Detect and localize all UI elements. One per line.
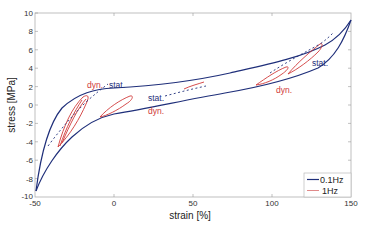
legend-label-1hz: 1Hz — [322, 186, 339, 196]
x-tick: -50 — [29, 199, 41, 208]
x-tick: 100 — [265, 199, 279, 208]
y-tick: 2 — [29, 83, 34, 92]
annotation-dyn: dyn. — [87, 80, 103, 90]
y-tick: 0 — [29, 101, 34, 110]
legend: 0.1Hz 1Hz — [304, 173, 351, 197]
annotation-stat: stat. — [312, 58, 328, 68]
y-tick: -6 — [26, 156, 34, 165]
y-tick: -2 — [26, 119, 34, 128]
annotation-dyn: dyn. — [276, 85, 292, 95]
annotation-stat: stat. — [148, 93, 164, 103]
plot-area — [35, 13, 351, 197]
y-tick: -4 — [26, 138, 34, 147]
annotation-stat: stat. — [109, 80, 125, 90]
x-tick: 150 — [344, 199, 358, 208]
annotation-dyn: dyn. — [148, 106, 164, 116]
legend-label-0.1hz: 0.1Hz — [320, 175, 344, 185]
stress-strain-chart: 10 8 6 4 2 0 -2 -4 -6 -8 -10 -50 0 50 10… — [0, 0, 369, 229]
y-tick: 8 — [29, 27, 34, 36]
y-tick: 10 — [24, 9, 33, 18]
y-tick: 6 — [29, 46, 34, 55]
x-axis-label: strain [%] — [169, 210, 211, 221]
y-axis-label: stress [MPa] — [6, 77, 17, 133]
x-tick: 0 — [112, 199, 117, 208]
y-tick: -8 — [26, 175, 34, 184]
y-tick: 4 — [29, 64, 34, 73]
x-tick: 50 — [189, 199, 198, 208]
